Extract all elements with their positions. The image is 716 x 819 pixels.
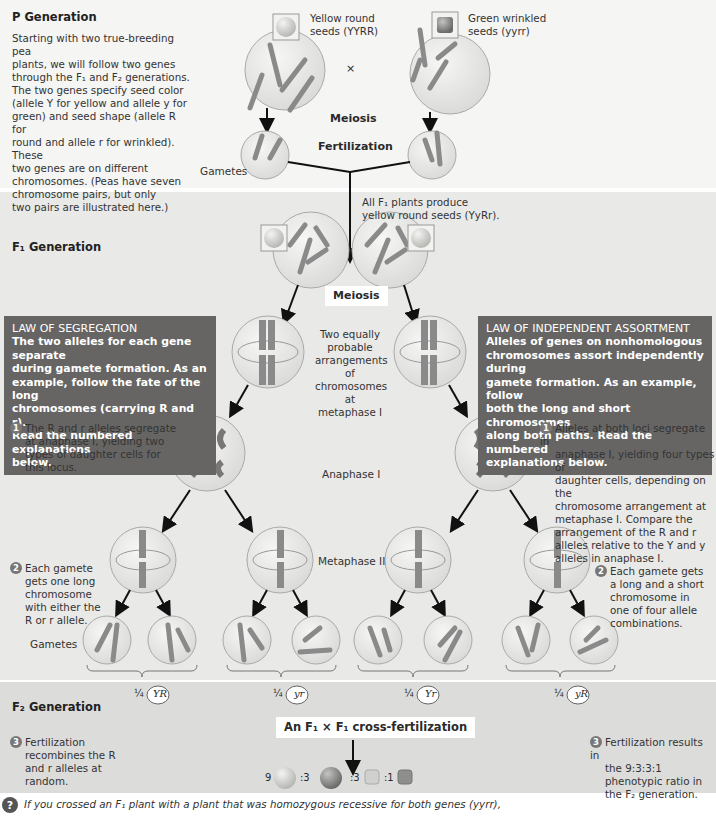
fertilization-label: Fertilization: [318, 140, 393, 154]
metaphase1-caption: Two equally probable arrangements of chr…: [315, 328, 385, 419]
parent-cell-yyrr-green: [410, 30, 490, 114]
gamete-cell-ry: [241, 131, 289, 179]
ratio-3b: :3: [350, 772, 360, 785]
parent-cell-yyrr-yellow: [245, 30, 325, 110]
f1-note: All F₁ plants produceyellow round seeds …: [362, 196, 500, 222]
fraction-yr-2: ¼ yr: [273, 688, 304, 701]
meiosis-label: Meiosis: [330, 112, 377, 126]
segregation-step-2: 2Each gamete gets one long chromosome wi…: [10, 562, 110, 627]
metaphase2-label: Metaphase II: [318, 555, 385, 568]
fraction-yr-3: ¼ Yr: [404, 688, 436, 701]
green-round-seed-icon: [320, 767, 342, 789]
green-wrinkled-seed-icon: [398, 770, 412, 784]
ratio-1: :1: [384, 772, 394, 785]
independent-step-2: 2Each gamete gets a long and a short chr…: [595, 565, 713, 630]
fraction-yr-4: ¼ yR: [554, 688, 588, 701]
f2-left-step: 3Fertilization recombines the R and r al…: [10, 736, 140, 788]
p-generation-title: P Generation: [12, 10, 97, 25]
f1-gametes-label: Gametes: [30, 638, 77, 651]
question-text: If you crossed an F₁ plant with a plant …: [24, 798, 501, 811]
fraction-yr-1: ¼ YR: [134, 688, 167, 701]
ratio-3a: :3: [300, 772, 310, 785]
parent2-label: Green wrinkledseeds (yyrr): [468, 12, 546, 38]
gametes-label: Gametes: [200, 165, 247, 178]
yellow-wrinkled-seed-icon: [365, 770, 379, 784]
f1-meiosis-label: Meiosis: [325, 286, 388, 306]
f1-generation-title: F₁ Generation: [12, 240, 101, 255]
yellow-round-seed-icon: [274, 767, 296, 789]
svg-text:?: ?: [7, 799, 13, 812]
f2-generation-title: F₂ Generation: [12, 700, 101, 715]
parent1-label: Yellow roundseeds (YYRR): [310, 12, 378, 38]
p-generation-description: Starting with two true-breeding pea plan…: [12, 32, 192, 214]
green-wrinkled-seed-icon: [437, 17, 453, 33]
segregation-step-1: 1The R and r alleles segregate at anapha…: [10, 422, 180, 474]
ratio-9: 9: [265, 772, 271, 785]
anaphase1-label: Anaphase I: [322, 468, 380, 481]
metaphase1-cell-right: [394, 316, 466, 388]
f2-right-step: 3Fertilization results in the 9:3:3:1 ph…: [590, 736, 715, 801]
cross-symbol: ×: [346, 62, 355, 76]
yellow-round-seed-icon: [276, 17, 296, 37]
f1-cross-label: An F₁ × F₁ cross-fertilization: [276, 717, 475, 738]
metaphase1-cell-left: [232, 316, 304, 388]
independent-step-1: 1Alleles at both loci segregate in anaph…: [540, 422, 715, 565]
